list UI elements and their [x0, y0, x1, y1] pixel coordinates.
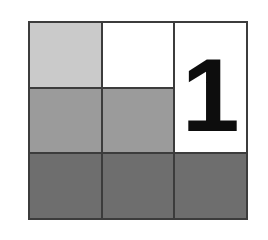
grid-cell-middle-left — [30, 89, 101, 153]
grid-cell-bottom-right — [175, 154, 246, 218]
grid-cell-right-merged: 1 — [175, 23, 246, 152]
grid-cell-bottom-middle — [103, 154, 174, 218]
cell-number-label: 1 — [182, 43, 240, 147]
grid-cell-middle-middle — [103, 89, 174, 153]
grid-cell-bottom-left — [30, 154, 101, 218]
grid-cell-top-middle — [103, 23, 174, 87]
grid-cell-top-left — [30, 23, 101, 87]
shaded-grid-figure: 1 — [28, 21, 248, 220]
